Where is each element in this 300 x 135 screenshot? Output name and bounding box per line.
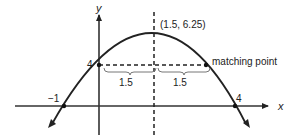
x-axis-label: x <box>277 100 284 112</box>
root-left-label: −1 <box>48 93 60 104</box>
parabola-diagram: y x (1.5, 6.25) 4 matching point 1.5 1.5… <box>0 0 300 135</box>
brace-right <box>158 68 210 75</box>
root-right-label: 4 <box>236 93 242 104</box>
matching-point-dot <box>204 63 208 67</box>
brace-left <box>104 68 156 75</box>
distance-label-left: 1.5 <box>119 77 133 88</box>
distance-label-right: 1.5 <box>173 77 187 88</box>
root-right-point <box>233 104 237 108</box>
matching-point-label: matching point <box>212 56 277 67</box>
y-intercept-point <box>97 63 101 67</box>
y-axis-label: y <box>95 2 103 14</box>
root-left-point <box>62 104 66 108</box>
parabola-curve <box>52 33 246 124</box>
vertex-label: (1.5, 6.25) <box>160 19 206 30</box>
y-intercept-label: 4 <box>87 59 93 70</box>
